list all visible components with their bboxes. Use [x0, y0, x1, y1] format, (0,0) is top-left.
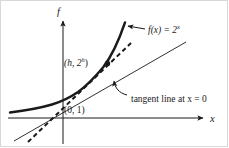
labels-group: f x f(x) = 2x (h, 2h) (0, 1) tangent lin…	[57, 6, 215, 124]
axes-group	[8, 21, 203, 144]
figure-canvas: f x f(x) = 2x (h, 2h) (0, 1) tangent lin…	[0, 0, 229, 148]
exponential-tangent-figure: f x f(x) = 2x (h, 2h) (0, 1) tangent lin…	[0, 0, 229, 148]
y-axis-label: f	[57, 6, 62, 17]
point-label-open: (h, 2	[64, 58, 82, 69]
point-marker-h	[105, 61, 110, 66]
curve-label-leader-arrow	[128, 26, 145, 29]
curve-label-exponent: x	[176, 23, 180, 30]
x-axis-label: x	[209, 113, 215, 124]
tangent-line	[14, 42, 186, 141]
point-label: (h, 2h)	[64, 56, 88, 69]
tangent-label-leader-arrow	[114, 81, 127, 95]
tangent-label: tangent line at x = 0	[131, 94, 207, 104]
intercept-label: (0, 1)	[64, 105, 85, 116]
point-label-close: )	[85, 58, 88, 69]
curve-label-base: f(x) = 2	[148, 25, 177, 36]
curve-label: f(x) = 2x	[148, 23, 180, 36]
